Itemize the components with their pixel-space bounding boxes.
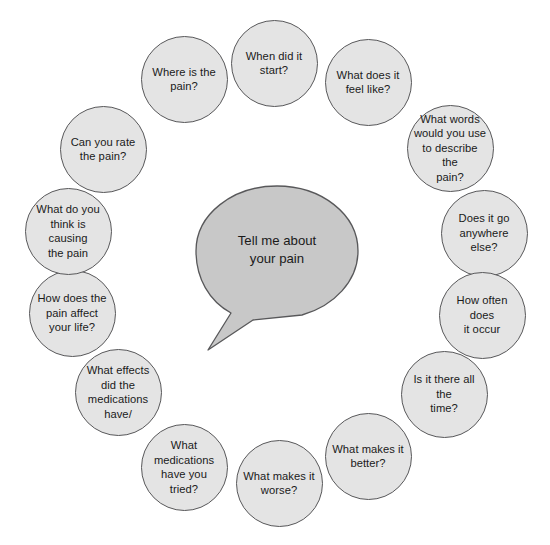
question-node-what-does-it-feel-like[interactable]: What does itfeel like? (325, 39, 412, 126)
question-node-label: How often doesit occur (440, 293, 525, 337)
question-node-line: the pain? (71, 149, 136, 164)
question-node-line: your life? (37, 320, 106, 335)
question-node-line: time? (408, 401, 481, 416)
question-node-label: When did itstart? (240, 49, 309, 78)
question-node-what-do-you-think-is-causing-the-pain[interactable]: What do youthink is causingthe pain (25, 188, 112, 275)
question-node-label: Whatmedicationshave you tried? (142, 438, 227, 496)
question-node-line: anywhere else? (448, 226, 521, 255)
question-node-line: pain? (414, 170, 487, 185)
central-speech-bubble: Tell me about your pain (193, 183, 361, 355)
question-node-does-it-go-anywhere-else[interactable]: Does it goanywhere else? (441, 190, 528, 277)
question-node-line: think is causing (32, 217, 105, 246)
question-node-line: the pain (32, 246, 105, 261)
question-node-label: Where is thepain? (146, 65, 221, 94)
question-node-line: medications (148, 453, 221, 468)
question-node-line: to describe the (414, 141, 487, 170)
question-node-label: Is it there all thetime? (402, 372, 487, 416)
question-node-where-is-the-pain[interactable]: Where is thepain? (141, 36, 228, 123)
question-node-line: How often does (446, 293, 519, 322)
question-node-what-effects-did-medications-have[interactable]: What effectsdid themedicationshave/ (75, 349, 162, 436)
question-node-line: When did it (246, 49, 303, 64)
question-node-line: Can you rate (71, 135, 136, 150)
question-node-label: How does thepain affectyour life? (31, 291, 112, 335)
question-node-line: it occur (446, 322, 519, 337)
question-node-line: What makes it (243, 469, 315, 484)
question-node-line: How does the (37, 291, 106, 306)
pain-assessment-diagram: · · · · · · Where is thepain?When did it… (0, 0, 550, 545)
question-node-line: medications (87, 392, 150, 407)
question-node-label: Does it goanywhere else? (442, 211, 527, 255)
question-node-line: have you tried? (148, 467, 221, 496)
question-node-line: Where is the (152, 65, 215, 80)
question-node-line: pain affect (37, 306, 106, 321)
question-node-how-does-pain-affect-your-life[interactable]: How does thepain affectyour life? (29, 270, 116, 357)
speech-bubble-shape (193, 183, 361, 355)
question-node-line: would you use (414, 126, 487, 141)
question-node-how-often-does-it-occur[interactable]: How often doesit occur (439, 272, 526, 359)
question-node-line: pain? (152, 79, 215, 94)
question-node-what-medications-have-you-tried[interactable]: Whatmedicationshave you tried? (141, 424, 228, 511)
question-node-line: worse? (243, 483, 315, 498)
question-node-label: What do youthink is causingthe pain (26, 202, 111, 260)
question-node-label: What wordswould you useto describe thepa… (408, 112, 493, 185)
question-node-label: What effectsdid themedicationshave/ (81, 363, 156, 421)
question-node-line: What makes it (332, 442, 404, 457)
question-node-when-did-it-start[interactable]: When did itstart? (231, 20, 318, 107)
question-node-what-makes-it-better[interactable]: What makes itbetter? (325, 413, 412, 500)
question-node-line: What (148, 438, 221, 453)
question-node-line: What words (414, 112, 487, 127)
question-node-label: What makes itbetter? (326, 442, 410, 471)
clipped-header-artifact: · · · · · · (0, 0, 550, 4)
question-node-line: Is it there all the (408, 372, 481, 401)
question-node-line: feel like? (337, 82, 400, 97)
question-node-line: start? (246, 63, 303, 78)
question-node-line: What do you (32, 202, 105, 217)
question-node-label: What does itfeel like? (331, 68, 406, 97)
question-node-is-it-there-all-the-time[interactable]: Is it there all thetime? (401, 351, 488, 438)
question-node-line: What does it (337, 68, 400, 83)
question-node-line: What effects (87, 363, 150, 378)
question-node-line: Does it go (448, 211, 521, 226)
question-node-line: have/ (87, 407, 150, 422)
question-node-line: better? (332, 456, 404, 471)
question-node-what-makes-it-worse[interactable]: What makes itworse? (236, 440, 323, 527)
question-node-can-you-rate-the-pain[interactable]: Can you ratethe pain? (60, 106, 147, 193)
question-node-label: What makes itworse? (237, 469, 321, 498)
question-node-what-words-describe-pain[interactable]: What wordswould you useto describe thepa… (407, 105, 494, 192)
question-node-line: did the (87, 378, 150, 393)
question-node-label: Can you ratethe pain? (65, 135, 142, 164)
